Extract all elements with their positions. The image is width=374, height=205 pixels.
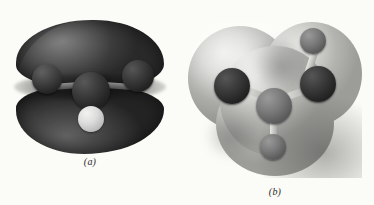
atom-right: [122, 60, 154, 92]
caption-a: (a): [10, 156, 170, 167]
figure-panel-a: (a): [10, 18, 170, 158]
figure-panel-b: (b): [186, 12, 364, 180]
atom-upper-right: [300, 66, 336, 102]
atom-upper-left: [214, 68, 250, 104]
figure-page: (a) (b): [0, 0, 374, 205]
atom-center: [256, 88, 292, 124]
atom-hydrogen-lower: [78, 106, 104, 132]
pi-molecular-orbital-surface: [10, 18, 170, 158]
atom-hydrogen-bottom: [260, 134, 286, 160]
atom-center: [72, 72, 110, 110]
atom-left: [32, 64, 62, 94]
atom-hydrogen-top: [300, 28, 326, 54]
caption-b: (b): [186, 186, 364, 197]
electron-density-surface: [186, 12, 364, 180]
